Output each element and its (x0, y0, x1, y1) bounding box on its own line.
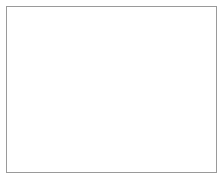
plot-frame-border (6, 6, 217, 173)
figure-root (0, 0, 224, 180)
